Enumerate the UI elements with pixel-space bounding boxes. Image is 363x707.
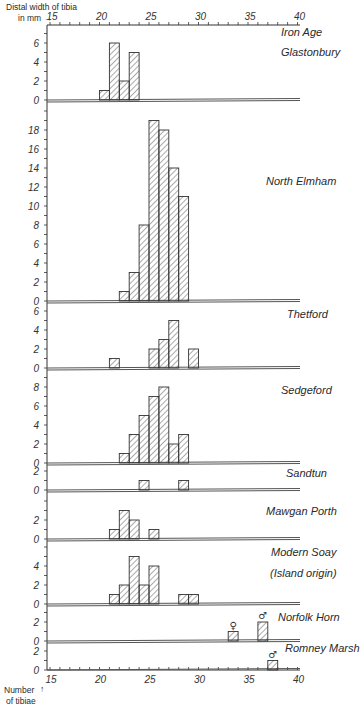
y-tick-label: 2 (32, 76, 39, 87)
histogram-bar (109, 43, 119, 100)
histogram-bar (149, 530, 159, 540)
panel-baseline (47, 99, 300, 101)
histogram-bar (228, 632, 238, 642)
panel-baseline (47, 489, 300, 491)
y-tick-label: 0 (33, 665, 39, 676)
histogram-bar (169, 321, 179, 369)
x-tick-label-bottom: 15 (45, 674, 57, 685)
y-tick-label: 2 (32, 515, 39, 526)
histogram-figure: 152025303540152025303540 0246Iron AgeGla… (0, 0, 363, 707)
histogram-bar (139, 225, 149, 301)
histogram-bar (139, 481, 149, 491)
panel-thetford: 0246Thetford (32, 306, 328, 374)
panel-label: Sandtun (286, 467, 327, 479)
y-tick-label: 14 (28, 163, 40, 174)
y-tick-label: 4 (33, 325, 39, 336)
y-tick-label: 2 (32, 580, 39, 591)
y-tick-label: 0 (33, 534, 39, 545)
histogram-bar (119, 81, 129, 100)
histogram-bar (179, 197, 189, 302)
y-tick-label: 2 (32, 439, 39, 450)
x-tick-label-top: 40 (294, 11, 306, 22)
y-axis-title-line1: Number (4, 685, 34, 695)
y-tick-label: 0 (33, 95, 39, 106)
histogram-bar (149, 397, 159, 464)
histogram-bar (119, 292, 129, 302)
panel-label: Iron Age (281, 26, 322, 38)
y-tick-label: 12 (28, 182, 40, 193)
panel-baseline-double (47, 605, 300, 607)
panel-iron-age-glastonbury: 0246Iron AgeGlastonbury (32, 26, 341, 106)
panels: 0246Iron AgeGlastonbury024681012141618No… (28, 26, 360, 676)
panel-baseline-double (47, 369, 300, 371)
histogram-bar (169, 168, 179, 301)
y-tick-label: 0 (33, 599, 39, 610)
y-tick-label: 6 (33, 306, 39, 317)
y-tick-label: 6 (33, 239, 39, 250)
y-tick-label: 18 (28, 125, 40, 136)
x-tick-label-bottom: 20 (94, 674, 107, 685)
histogram-bar (129, 557, 139, 605)
y-tick-label: 4 (33, 57, 39, 68)
y-tick-label: 8 (33, 382, 39, 393)
histogram-bar (119, 511, 129, 540)
female-symbol-icon: ♀ (229, 620, 236, 631)
x-axis-title-line1: Distal width of tibia (6, 2, 77, 12)
x-tick-label-bottom: 25 (143, 674, 156, 685)
y-tick-label: 8 (33, 220, 39, 231)
y-tick-label: 2 (32, 617, 39, 628)
histogram-bar (139, 585, 149, 604)
panel-label: Sedgeford (281, 384, 333, 396)
histogram-bar (179, 481, 189, 491)
panel-mawgan-porth: 02Mawgan Porth (32, 501, 337, 545)
panel-baseline-double (47, 642, 300, 644)
panel-sandtun: 02Sandtun (32, 466, 327, 496)
x-tick-label-top: 20 (95, 11, 108, 22)
y-tick-label: 6 (33, 401, 39, 412)
histogram-bar (179, 595, 189, 605)
panel-label: Mawgan Porth (266, 505, 337, 517)
histogram-bar (258, 622, 268, 641)
y-tick-label: 0 (33, 485, 39, 496)
histogram-bar (109, 595, 119, 605)
male-symbol-icon: ♂ (258, 610, 267, 621)
histogram-bar (149, 349, 159, 368)
x-tick-label-top: 25 (144, 11, 157, 22)
y-tick-label: 2 (32, 277, 39, 288)
x-tick-label-top: 30 (195, 11, 207, 22)
y-tick-label: 2 (32, 646, 39, 657)
histogram-bar (129, 53, 139, 101)
panel-sedgeford: 02468Sedgeford (32, 378, 332, 469)
histogram-bar (189, 595, 199, 605)
histogram-bar (179, 435, 189, 464)
x-tick-label-top: 35 (244, 11, 256, 22)
histogram-bar (119, 454, 129, 464)
histogram-bar (100, 91, 110, 101)
panel-baseline (47, 538, 300, 540)
y-tick-label: 10 (28, 201, 40, 212)
histogram-bar (119, 585, 129, 604)
y-tick-label: 4 (33, 561, 39, 572)
y-tick-label: 4 (33, 258, 39, 269)
histogram-bar (139, 416, 149, 464)
panel-baseline-double (47, 540, 300, 542)
panel-label: Romney Marsh (285, 642, 360, 654)
y-tick-label: 2 (32, 466, 39, 477)
histogram-bar (159, 340, 169, 369)
histogram-bar (159, 130, 169, 301)
panel-label: Glastonbury (281, 46, 342, 58)
histogram-bar (109, 530, 119, 540)
y-axis-title-line2: of tibiae (6, 696, 36, 706)
y-tick-label: 16 (28, 144, 40, 155)
histogram-bar (129, 520, 139, 539)
y-tick-label: 2 (32, 344, 39, 355)
y-tick-label: 4 (33, 420, 39, 431)
panel-label: Norfolk Horn (278, 611, 340, 623)
histogram-bar (149, 566, 159, 604)
histogram-bar (169, 444, 179, 463)
panel-baseline-double (47, 101, 300, 103)
histogram-bar (268, 661, 278, 671)
panel-label: Thetford (287, 308, 329, 320)
histogram-bar (129, 435, 139, 464)
x-tick-label-bottom: 40 (293, 674, 305, 685)
